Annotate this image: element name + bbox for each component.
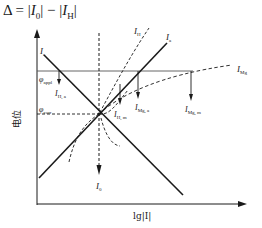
phi-corr-label: φcorr xyxy=(39,105,52,115)
img-curve xyxy=(99,65,232,114)
polarization-diagram: 电位 lg|I| Ic Ia IH IMg I0 φappl φcorr xyxy=(0,0,262,228)
phi-appl-label: φappl xyxy=(39,75,53,85)
ih-a-arrow xyxy=(57,71,61,85)
ih-label: IH xyxy=(133,26,141,37)
ic-label: Ic xyxy=(39,46,46,57)
x-axis-label: lg|I| xyxy=(133,211,151,222)
x-axis xyxy=(37,201,247,207)
ih-m-label: IH, m xyxy=(113,110,127,121)
img-label: IMg xyxy=(236,64,247,75)
img-m-arrow xyxy=(189,71,193,101)
ia-label: Ia xyxy=(165,32,172,43)
x-axis-arrow-icon xyxy=(238,201,247,207)
corrosion-point xyxy=(97,112,100,115)
i0-label: I0 xyxy=(95,181,102,192)
ih-a-label: IH, a xyxy=(54,89,67,100)
y-axis-arrow-icon xyxy=(34,29,40,38)
ic-curve xyxy=(44,55,183,195)
img-m-label: IMg, m xyxy=(184,105,201,116)
img-a-label: IMg, a xyxy=(134,103,150,114)
i0-arrow-icon xyxy=(97,165,102,175)
y-axis-label: 电位 xyxy=(11,110,22,128)
